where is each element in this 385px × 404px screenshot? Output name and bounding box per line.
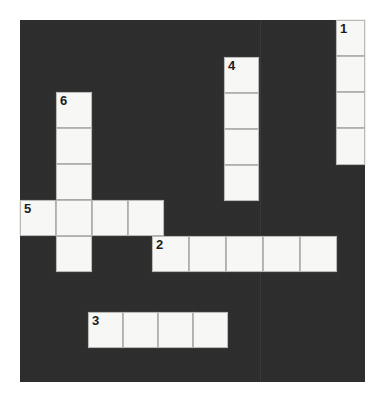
- crossword-cell[interactable]: [123, 312, 158, 348]
- crossword-cell[interactable]: [224, 165, 259, 201]
- crossword-cell[interactable]: [300, 236, 337, 272]
- cell-number-2: 2: [156, 237, 163, 252]
- crossword-cell[interactable]: [224, 129, 259, 165]
- crossword-puzzle: 146523: [0, 0, 385, 404]
- crossword-cell[interactable]: 3: [88, 312, 123, 348]
- crossword-cell[interactable]: [128, 200, 164, 236]
- crossword-cell[interactable]: [56, 164, 92, 200]
- crossword-grid-board: 146523: [20, 20, 365, 382]
- crossword-cell[interactable]: 6: [56, 92, 92, 128]
- crossword-cell[interactable]: 5: [20, 200, 56, 236]
- crossword-cell[interactable]: [158, 312, 193, 348]
- crossword-cell[interactable]: [336, 56, 365, 92]
- crossword-cell[interactable]: [224, 93, 259, 129]
- cell-number-3: 3: [92, 313, 99, 328]
- crossword-cell[interactable]: 1: [336, 20, 365, 56]
- crossword-cell[interactable]: [336, 92, 365, 128]
- grid-seam-line: [260, 20, 261, 382]
- crossword-cell[interactable]: 4: [224, 57, 259, 93]
- crossword-cell[interactable]: [56, 128, 92, 164]
- cell-number-1: 1: [340, 21, 347, 36]
- crossword-cell[interactable]: [336, 128, 365, 165]
- cell-number-6: 6: [60, 93, 67, 108]
- cell-number-4: 4: [228, 58, 235, 73]
- crossword-cell[interactable]: [92, 200, 128, 236]
- crossword-cell[interactable]: [193, 312, 228, 348]
- crossword-cell[interactable]: [263, 236, 300, 272]
- crossword-cell[interactable]: [56, 200, 92, 236]
- crossword-cell[interactable]: [189, 236, 226, 272]
- crossword-cell[interactable]: [56, 236, 92, 272]
- cell-number-5: 5: [24, 201, 31, 216]
- crossword-cell[interactable]: [226, 236, 263, 272]
- crossword-cell[interactable]: 2: [152, 236, 189, 272]
